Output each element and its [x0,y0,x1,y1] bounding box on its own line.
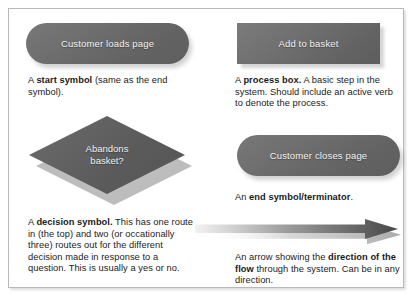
end-symbol-caption-rest: . [350,192,353,202]
flowchart-symbols-figure: Customer loads page A start symbol (same… [8,8,404,288]
decision-symbol-label-line-1: Abandons [86,143,129,155]
decision-symbol-caption: A decision symbol. This has one route in… [28,217,198,275]
process-box-caption-term: process box. [243,75,301,85]
decision-symbol-shape-label: Abandons basket? [29,116,185,194]
right-column: Add to basket A process box. A basic ste… [215,9,403,287]
left-column: Customer loads page A start symbol (same… [19,9,199,287]
start-symbol-shape-label: Customer loads page [61,38,154,49]
process-box-shape: Add to basket [237,23,380,64]
process-box-shape-label: Add to basket [278,38,338,49]
end-symbol-caption-lead: An [235,192,249,202]
flow-arrow-caption-rest: through the system. Can be in any direct… [235,264,400,286]
flow-arrow-shape-group [195,218,401,244]
flow-arrow-caption-lead: An arrow showing the [235,252,328,262]
decision-symbol-shape-group: Abandons basket? [27,116,197,208]
decision-symbol-label-line-2: basket? [90,155,123,167]
flow-arrow-caption: An arrow showing the direction of the fl… [235,252,407,287]
end-symbol-shape-group: Customer closes page [237,135,400,176]
decision-symbol-caption-term: decision symbol. [36,217,112,227]
start-symbol-caption: A start symbol (same as the end symbol). [28,75,196,98]
start-symbol-shape: Customer loads page [26,23,189,64]
start-symbol-shape-group: Customer loads page [26,23,189,64]
end-symbol-caption: An end symbol/terminator. [235,192,407,204]
process-box-caption: A process box. A basic step in the syste… [235,75,403,110]
end-symbol-shape: Customer closes page [237,135,400,176]
process-box-shape-group: Add to basket [237,23,380,64]
end-symbol-shape-label: Customer closes page [270,150,368,161]
end-symbol-caption-term: end symbol/terminator [249,192,350,202]
start-symbol-caption-term: start symbol [36,75,92,85]
flow-arrow-icon [195,218,401,244]
